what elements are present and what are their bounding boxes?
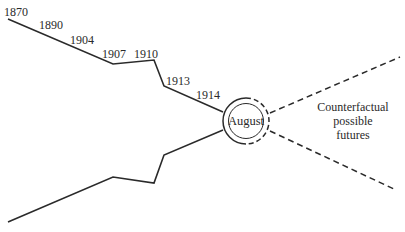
year-label-1914: 1914 (196, 88, 220, 102)
counterfactual-label-line3: futures (336, 128, 370, 142)
counterfactual-label-line2: possible (333, 114, 372, 128)
funnel-timeline-diagram: 1870 1890 1904 1907 1910 1913 1914 Augus… (0, 0, 405, 232)
year-label-1910: 1910 (134, 47, 158, 61)
counterfactual-label-line1: Counterfactual (317, 100, 389, 114)
upper-history-line (8, 19, 223, 112)
lower-history-line (8, 130, 223, 222)
year-label-1904: 1904 (70, 33, 94, 47)
lower-counterfactual-dashed-line (270, 131, 396, 190)
year-label-1870: 1870 (4, 5, 28, 19)
year-label-1907: 1907 (102, 47, 126, 61)
year-label-1890: 1890 (39, 18, 63, 32)
august-label: August (228, 114, 265, 128)
year-label-1913: 1913 (166, 74, 190, 88)
